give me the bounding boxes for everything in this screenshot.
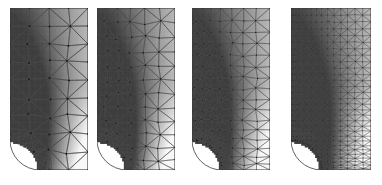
mesh-panel [291,8,371,170]
mesh-panel [97,8,175,170]
mesh-panel [10,8,88,170]
mesh-refinement-figure [0,0,382,185]
mesh-panel [192,8,270,170]
